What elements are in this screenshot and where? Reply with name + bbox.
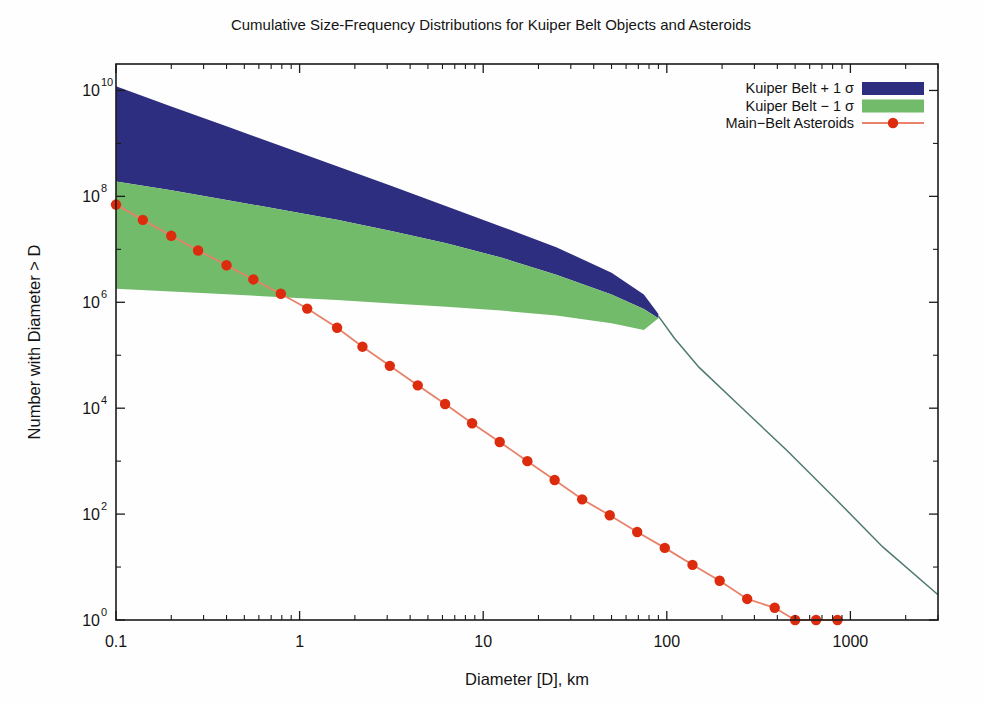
- asteroid-data-point: [467, 418, 477, 428]
- x-tick-label: 100: [653, 633, 680, 650]
- legend-label: Kuiper Belt + 1 σ: [746, 80, 855, 96]
- legend-label: Main−Belt Asteroids: [725, 115, 854, 131]
- x-tick-label: 1: [295, 633, 304, 650]
- asteroid-data-point: [221, 260, 231, 270]
- asteroid-data-point: [332, 323, 342, 333]
- svg-text:6: 6: [101, 288, 107, 300]
- svg-text:0: 0: [101, 606, 107, 618]
- asteroid-data-point: [687, 560, 697, 570]
- chart-title: Cumulative Size-Frequency Distributions …: [231, 16, 751, 33]
- asteroid-data-point: [166, 231, 176, 241]
- asteroid-data-point: [605, 510, 615, 520]
- svg-text:2: 2: [101, 500, 107, 512]
- legend-swatch: [862, 100, 924, 113]
- asteroid-data-point: [495, 437, 505, 447]
- asteroid-data-point: [714, 576, 724, 586]
- figure-container: Cumulative Size-Frequency Distributions …: [0, 0, 983, 705]
- chart-canvas: Cumulative Size-Frequency Distributions …: [0, 0, 983, 705]
- svg-text:10: 10: [82, 612, 100, 629]
- x-tick-label: 0.1: [105, 633, 127, 650]
- asteroid-data-point: [549, 475, 559, 485]
- legend-swatch: [862, 82, 924, 95]
- asteroid-data-point: [357, 341, 367, 351]
- asteroid-data-point: [577, 494, 587, 504]
- asteroid-data-point: [276, 289, 286, 299]
- asteroid-data-point: [632, 527, 642, 537]
- x-tick-label: 1000: [833, 633, 869, 650]
- legend-swatch-marker: [888, 118, 898, 128]
- chart-legend[interactable]: Kuiper Belt + 1 σKuiper Belt − 1 σMain−B…: [725, 80, 924, 131]
- asteroid-data-point: [138, 215, 148, 225]
- asteroid-data-point: [193, 245, 203, 255]
- svg-text:10: 10: [82, 82, 100, 99]
- x-tick-label: 10: [474, 633, 492, 650]
- svg-text:10: 10: [82, 506, 100, 523]
- asteroid-data-point: [742, 594, 752, 604]
- svg-text:8: 8: [101, 182, 107, 194]
- asteroid-data-point: [770, 603, 780, 613]
- y-axis-label: Number with Diameter > D: [25, 244, 43, 439]
- asteroid-data-point: [385, 361, 395, 371]
- asteroid-data-point: [248, 274, 258, 284]
- legend-label: Kuiper Belt − 1 σ: [746, 98, 855, 114]
- asteroid-data-point: [302, 303, 312, 313]
- asteroid-data-point: [522, 456, 532, 466]
- asteroid-data-point: [440, 399, 450, 409]
- x-axis-label: Diameter [D], km: [465, 670, 589, 688]
- svg-text:10: 10: [82, 294, 100, 311]
- svg-text:10: 10: [82, 188, 100, 205]
- svg-text:4: 4: [101, 394, 107, 406]
- asteroid-data-point: [660, 543, 670, 553]
- svg-text:10: 10: [101, 76, 113, 88]
- svg-text:10: 10: [82, 400, 100, 417]
- asteroid-data-point: [413, 380, 423, 390]
